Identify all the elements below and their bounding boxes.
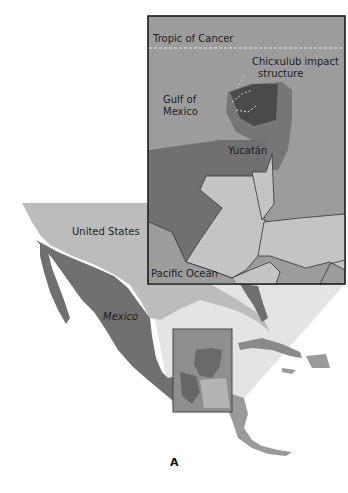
figure-panel-label: A <box>170 456 179 469</box>
yucatan-label: Yucatán <box>228 145 267 156</box>
chicxulub-label-line2: structure <box>258 68 303 79</box>
gulf-of-mexico-label-line2: Mexico <box>163 106 198 117</box>
mexico-label: Mexico <box>103 311 138 322</box>
gulf-of-mexico-label-line1: Gulf of <box>163 94 196 105</box>
pacific-ocean-label: Pacific Ocean <box>151 268 218 279</box>
jamaica-land <box>282 368 296 374</box>
tropic-of-cancer-label: Tropic of Cancer <box>153 33 233 44</box>
hispaniola-land <box>306 354 330 368</box>
united-states-label: United States <box>72 226 140 237</box>
central-america-land <box>226 392 292 456</box>
chicxulub-label-line1: Chicxulub impact <box>252 56 339 67</box>
